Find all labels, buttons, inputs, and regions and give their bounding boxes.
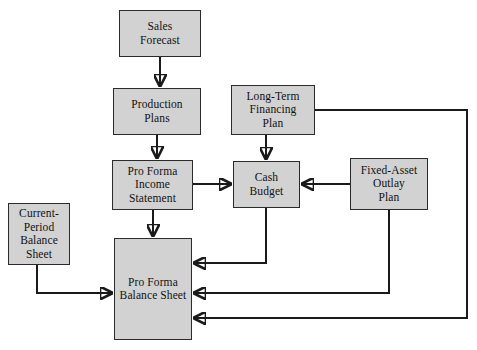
node-pro-forma-income-statement-line2: Income	[126, 178, 180, 192]
node-fixed-asset-outlay-plan[interactable]: Fixed-Asset Outlay Plan	[350, 158, 428, 210]
node-fixed-asset-outlay-plan-line3: Plan	[359, 191, 420, 205]
node-long-term-financing-plan-line2: Financing	[244, 103, 301, 117]
node-sales-forecast[interactable]: Sales Forecast	[119, 10, 201, 57]
node-current-period-balance-sheet-line4: Sheet	[17, 248, 61, 262]
node-sales-forecast-line2: Forecast	[138, 34, 182, 48]
node-pro-forma-income-statement-line3: Statement	[126, 192, 180, 206]
node-long-term-financing-plan-line3: Plan	[244, 117, 301, 131]
node-cash-budget-line1: Cash	[248, 171, 286, 185]
node-sales-forecast-line1: Sales	[138, 20, 182, 34]
node-current-period-balance-sheet-line2: Period	[17, 221, 61, 235]
node-pro-forma-balance-sheet-line1: Pro Forma	[118, 276, 189, 290]
edge-currentperiod-to-balance	[37, 265, 112, 293]
node-production-plans[interactable]: Production Plans	[113, 88, 201, 135]
node-pro-forma-balance-sheet[interactable]: Pro Forma Balance Sheet	[114, 238, 192, 340]
node-pro-forma-income-statement[interactable]: Pro Forma Income Statement	[112, 160, 193, 210]
node-fixed-asset-outlay-plan-line1: Fixed-Asset	[359, 164, 420, 178]
node-fixed-asset-outlay-plan-line2: Outlay	[359, 177, 420, 191]
node-long-term-financing-plan[interactable]: Long-Term Financing Plan	[231, 85, 315, 135]
node-current-period-balance-sheet[interactable]: Current- Period Balance Sheet	[8, 203, 70, 265]
edge-longterm-to-balance	[194, 110, 467, 318]
node-pro-forma-income-statement-line1: Pro Forma	[126, 165, 180, 179]
node-pro-forma-balance-sheet-line2: Balance Sheet	[118, 289, 189, 303]
node-cash-budget[interactable]: Cash Budget	[233, 161, 300, 208]
node-current-period-balance-sheet-line3: Balance	[17, 234, 61, 248]
flowchart-diagram: Sales Forecast Production Plans Long-Ter…	[0, 0, 477, 350]
node-cash-budget-line2: Budget	[248, 185, 286, 199]
edge-cash-to-balance	[194, 208, 266, 263]
node-long-term-financing-plan-line1: Long-Term	[244, 90, 301, 104]
node-production-plans-line1: Production	[129, 98, 184, 112]
edge-fixedasset-to-balance	[194, 210, 389, 293]
node-current-period-balance-sheet-line1: Current-	[17, 207, 61, 221]
node-production-plans-line2: Plans	[129, 112, 184, 126]
